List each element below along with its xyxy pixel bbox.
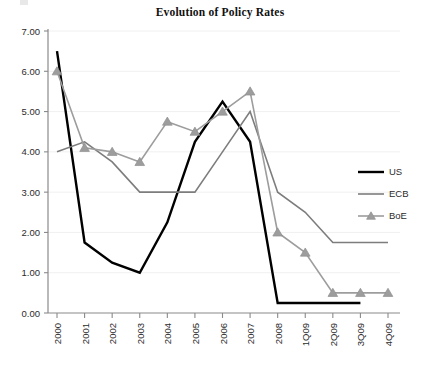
x-tick-label: 2Q09	[328, 323, 339, 346]
y-tick-label: 0.00	[22, 308, 41, 319]
data-point-marker-boe	[163, 117, 173, 125]
x-tick-label: 1Q09	[300, 323, 311, 346]
x-tick-label: 2005	[190, 323, 201, 344]
x-tick-label: 3Q09	[355, 323, 366, 346]
series-line-us	[57, 51, 360, 303]
legend-group: USECBBoE	[358, 166, 409, 221]
data-point-marker-boe	[273, 228, 283, 236]
x-tick-label: 2001	[80, 323, 91, 344]
y-tick-label: 5.00	[22, 106, 41, 117]
y-tick-label: 1.00	[22, 267, 41, 278]
y-tick-label: 2.00	[22, 227, 41, 238]
x-tick-label: 4Q09	[383, 323, 394, 346]
data-point-marker-boe	[245, 87, 255, 95]
y-tick-label: 6.00	[22, 66, 41, 77]
x-tick-label: 2008	[273, 323, 284, 344]
x-tick-label: 2006	[218, 323, 229, 344]
y-tick-label: 7.00	[22, 26, 41, 37]
x-tick-label: 2007	[245, 323, 256, 344]
series-line-ecb	[57, 112, 388, 243]
legend-label-boe: BoE	[389, 210, 407, 221]
x-tick-label: 2004	[162, 323, 173, 344]
y-axis-group: 0.001.002.003.004.005.006.007.00	[22, 26, 49, 319]
x-tick-label: 2000	[52, 323, 63, 344]
x-tick-label: 2003	[135, 323, 146, 344]
chart-canvas: 0.001.002.003.004.005.006.007.00 2000200…	[0, 0, 440, 366]
x-axis-group: 2000200120022003200420052006200720081Q09…	[48, 313, 400, 346]
series-group	[52, 51, 393, 303]
gridlines-group	[48, 31, 400, 273]
legend-label-us: US	[389, 166, 402, 177]
policy-rates-chart: Evolution of Policy Rates 0.001.002.003.…	[0, 0, 440, 366]
legend-label-ecb: ECB	[389, 188, 409, 199]
x-tick-label: 2002	[107, 323, 118, 344]
y-tick-label: 3.00	[22, 187, 41, 198]
y-tick-label: 4.00	[22, 146, 41, 157]
